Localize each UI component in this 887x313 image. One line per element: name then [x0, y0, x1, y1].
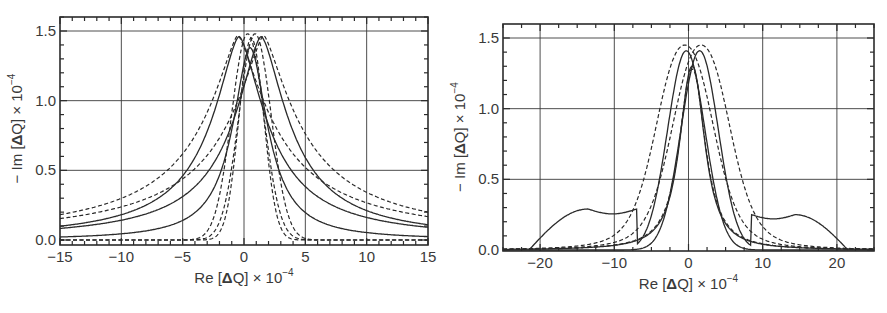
right-plot-svg: −20−10010200.00.51.01.5Re [ΔQ] × 10−4− I…: [443, 0, 887, 313]
left-plot-svg: −15−10−50510150.00.51.01.5Re [ΔQ] × 10−4…: [0, 0, 443, 313]
x-tick-label: 10: [358, 248, 375, 265]
series-curve-0: [529, 51, 874, 250]
x-tick-label: −15: [47, 248, 72, 265]
y-axis-label: − Im [ΔQ] × 10−4: [449, 82, 468, 192]
plot-area-left: [60, 17, 428, 245]
x-tick-label: 0: [684, 254, 692, 271]
y-tick-label: 0.0: [478, 241, 499, 258]
y-tick-label: 1.0: [478, 100, 499, 117]
chart-right-panel: −20−10010200.00.51.01.5Re [ΔQ] × 10−4− I…: [443, 0, 887, 313]
y-tick-label: 1.0: [35, 92, 56, 109]
y-tick-label: 1.5: [35, 22, 56, 39]
x-tick-label: −10: [109, 248, 134, 265]
y-tick-label: 0.0: [35, 231, 56, 248]
x-tick-label: 0: [240, 248, 248, 265]
x-axis-label: Re [ΔQ] × 10−4: [194, 267, 294, 286]
x-tick-label: −20: [527, 254, 552, 271]
plot-area-right: [503, 24, 874, 251]
x-tick-label: 20: [829, 254, 846, 271]
y-tick-label: 0.5: [35, 161, 56, 178]
x-tick-label: 5: [301, 248, 309, 265]
x-tick-label: −10: [602, 254, 627, 271]
x-tick-label: −5: [174, 248, 191, 265]
y-tick-label: 1.5: [478, 29, 499, 46]
y-axis-label: − Im [ΔQ] × 10−4: [6, 73, 25, 183]
chart-left-panel: −15−10−50510150.00.51.01.5Re [ΔQ] × 10−4…: [0, 0, 443, 313]
x-tick-label: 10: [754, 254, 771, 271]
y-tick-label: 0.5: [478, 170, 499, 187]
x-tick-label: 15: [420, 248, 437, 265]
x-axis-label: Re [ΔQ] × 10−4: [639, 273, 739, 292]
